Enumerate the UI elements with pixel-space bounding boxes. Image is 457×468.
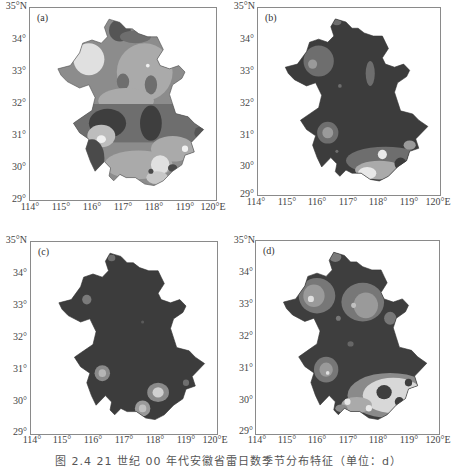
panel-b: (b) 35°N 34° 33° 32° 31° 30° 29° 114° 11…: [228, 0, 457, 225]
x-tick: 116°: [308, 196, 327, 207]
x-tick: 118°: [145, 201, 164, 212]
y-tick: 34°: [0, 267, 27, 278]
map-frame-d: (d): [255, 240, 440, 435]
y-tick: 35°N: [0, 234, 27, 245]
y-tick: 33°: [0, 299, 27, 310]
x-tick: 114°: [247, 196, 266, 207]
x-tick: 114°: [23, 434, 42, 445]
y-tick: 32°: [0, 97, 26, 108]
x-tick: 115°: [278, 434, 297, 445]
x-tick: 116°: [308, 434, 327, 445]
contour-map-c: [31, 242, 217, 434]
y-tick: 34°: [224, 33, 254, 44]
map-frame-a: (a): [29, 7, 217, 201]
contour-map-d: [256, 241, 439, 434]
x-tick: 117°: [115, 434, 134, 445]
y-tick: 30°: [0, 161, 26, 172]
y-tick: 31°: [0, 129, 26, 140]
x-tick: 120°E: [425, 434, 450, 445]
x-tick: 119°: [400, 196, 419, 207]
x-tick: 119°: [177, 434, 196, 445]
x-tick: 119°: [176, 201, 195, 212]
x-tick: 119°: [400, 434, 419, 445]
x-tick: 118°: [369, 196, 388, 207]
panel-label: (a): [37, 12, 48, 23]
x-tick: 117°: [339, 434, 358, 445]
y-tick: 31°: [224, 129, 254, 140]
panel-d: (d) 35°N 34° 33° 32° 31° 30° 29° 114° 11…: [228, 228, 457, 452]
y-tick: 33°: [223, 298, 253, 309]
x-tick: 116°: [83, 201, 102, 212]
contour-map-b: [258, 8, 440, 195]
y-tick: 31°: [223, 362, 253, 373]
x-tick: 115°: [278, 196, 297, 207]
map-frame-b: (b): [257, 7, 441, 196]
x-tick: 116°: [84, 434, 103, 445]
panel-label: (d): [263, 245, 275, 256]
figure-caption: 图 2.4 21 世纪 00 年代安徽省雷日数季节分布特征（单位：d）: [0, 452, 457, 468]
x-tick: 120°E: [200, 201, 225, 212]
x-tick: 117°: [339, 196, 358, 207]
x-tick: 117°: [114, 201, 133, 212]
y-tick: 32°: [0, 331, 27, 342]
x-tick: 115°: [52, 201, 71, 212]
x-tick: 120°E: [425, 196, 450, 207]
map-frame-c: (c): [30, 241, 218, 435]
panel-a: (a) 35°N 34° 33° 32° 31° 30° 29° 114° 11…: [0, 0, 228, 225]
y-tick: 30°: [0, 395, 27, 406]
y-tick: 33°: [224, 65, 254, 76]
contour-map-a: [30, 8, 216, 200]
y-tick: 35°N: [0, 0, 27, 11]
x-tick: 114°: [248, 434, 267, 445]
x-tick: 118°: [146, 434, 165, 445]
panel-label: (b): [265, 12, 277, 23]
y-tick: 32°: [224, 97, 254, 108]
y-tick: 32°: [223, 330, 253, 341]
panel-c: (c) 35°N 34° 33° 32° 31° 30° 29° 114° 11…: [0, 228, 228, 452]
panel-label: (c): [38, 246, 49, 257]
y-tick: 35°N: [225, 234, 255, 245]
y-tick: 30°: [223, 394, 253, 405]
y-tick: 35°N: [225, 0, 255, 11]
y-tick: 30°: [224, 160, 254, 171]
x-tick: 114°: [21, 201, 40, 212]
y-tick: 31°: [0, 363, 27, 374]
y-tick: 34°: [0, 33, 26, 44]
x-tick: 118°: [369, 434, 388, 445]
y-tick: 33°: [0, 65, 26, 76]
y-tick: 34°: [223, 266, 253, 277]
x-tick: 115°: [53, 434, 72, 445]
